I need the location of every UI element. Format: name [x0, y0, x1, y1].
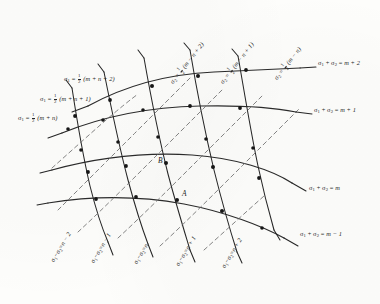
lattice-node: [94, 197, 98, 201]
sum-curve-m-minus-1: [48, 198, 284, 238]
figure-root: .solid { fill:none; stroke:#262626; stro…: [0, 0, 380, 304]
fraction-denominator: 2: [54, 99, 57, 105]
lattice-node: [79, 148, 83, 152]
lattice-node: [204, 137, 208, 141]
sigma1-curve-5: [238, 56, 274, 230]
sigma-subscript: 1: [44, 98, 46, 103]
lattice-node: [101, 118, 105, 122]
lattice-node: [260, 226, 264, 230]
fraction-denominator: 2: [32, 118, 35, 124]
lattice-node: [134, 195, 138, 199]
equals-operator: =: [48, 95, 52, 102]
one-half-fraction: 1 2: [32, 113, 35, 124]
right-label-value: m: [335, 184, 340, 191]
plus-operator: +: [308, 230, 312, 237]
lattice-node: [116, 140, 120, 144]
equals-operator: =: [330, 184, 334, 191]
left-label-argument: (m + n + 1): [59, 95, 90, 102]
stub-o: [72, 106, 88, 112]
sigma-subscript: 2: [317, 233, 319, 238]
equals-operator: =: [321, 230, 325, 237]
equals-operator: =: [339, 59, 343, 66]
lattice-node: [66, 127, 70, 131]
stub-k: [300, 67, 316, 68]
lattice-node: [156, 135, 160, 139]
right-label-sum-m-plus-1: σ1 + σ2 = m + 1: [314, 107, 356, 115]
sigma-subscript: 1: [322, 62, 324, 67]
point-label-B: B: [158, 156, 163, 165]
sum-curves-group: [48, 62, 300, 238]
left-label-argument: (m + n + 2): [83, 75, 114, 82]
sum-curve-m-plus-1: [62, 106, 296, 133]
lattice-node: [141, 108, 145, 112]
stub-c: [138, 50, 144, 58]
stub-p: [48, 133, 62, 138]
stub-n: [284, 238, 298, 246]
stub-d: [184, 43, 190, 50]
stub-l: [296, 112, 312, 114]
right-label-value: m + 2: [344, 59, 360, 66]
one-half-fraction: 1 2: [54, 94, 57, 105]
fraction-denominator: 2: [78, 79, 81, 85]
lattice-node: [73, 114, 77, 118]
sigma-subscript: 2: [331, 109, 333, 114]
right-label-value: m − 1: [326, 230, 342, 237]
equals-operator: =: [26, 114, 30, 121]
lattice-node: [188, 104, 192, 108]
stub-r: [37, 203, 48, 205]
lattice-node: [124, 164, 128, 168]
lattice-nodes-group: [66, 68, 264, 230]
plus-operator: +: [326, 59, 330, 66]
equals-operator: =: [335, 106, 339, 113]
lattice-node: [220, 209, 224, 213]
lattice-node: [238, 106, 242, 110]
left-label-sigma1-mn1: σ1 = 1 2 (m + n + 1): [40, 94, 91, 105]
lattice-node: [150, 84, 154, 88]
left-label-sigma1-mn: σ1 = 1 2 (m + n): [18, 113, 58, 124]
right-label-sum-m-plus-2: σ1 + σ2 = m + 2: [318, 60, 360, 68]
sigma-subscript: 1: [22, 117, 24, 122]
sigma-subscript: 1: [68, 78, 70, 83]
one-half-fraction: 1 2: [78, 74, 81, 85]
right-label-value: m + 1: [340, 106, 356, 113]
lattice-node: [175, 198, 179, 202]
sigma-subscript: 1: [318, 109, 320, 114]
plus-operator: +: [317, 184, 321, 191]
sigma2-dashed-5: [52, 94, 138, 168]
point-label-A: A: [182, 189, 187, 198]
stub-m: [292, 183, 306, 191]
left-label-sigma1-mn2: σ1 = 1 2 (m + n + 2): [64, 74, 115, 85]
sigma-subscript: 2: [326, 187, 328, 192]
equals-operator: =: [72, 75, 76, 82]
right-label-sum-m: σ1 + σ2 = m: [309, 185, 340, 193]
lattice-node: [244, 68, 248, 72]
left-label-argument: (m + n): [37, 114, 57, 121]
right-label-sum-m-minus-1: σ1 + σ2 = m − 1: [300, 231, 342, 239]
lattice-node: [86, 170, 90, 174]
lattice-node: [164, 161, 168, 165]
sigma-subscript: 1: [313, 187, 315, 192]
lattice-node: [251, 146, 255, 150]
plus-operator: +: [322, 106, 326, 113]
sigma-subscript: 1: [304, 233, 306, 238]
lattice-node: [108, 98, 112, 102]
lattice-node: [257, 176, 261, 180]
stub-i: [237, 252, 242, 263]
sigma-subscript: 2: [335, 62, 337, 67]
stub-q: [40, 170, 52, 173]
lattice-node: [196, 74, 200, 78]
lattice-node: [211, 165, 215, 169]
stub-b: [98, 64, 104, 72]
